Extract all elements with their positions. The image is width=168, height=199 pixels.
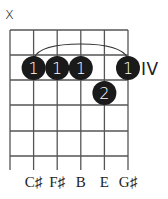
finger-label: 1 (52, 59, 62, 78)
note-name: B (69, 174, 93, 191)
chord-grid: 1 1 1 1 2 (0, 0, 168, 199)
finger-label: 1 (76, 59, 86, 78)
note-name: F♯ (45, 174, 69, 191)
finger-label: 1 (29, 59, 39, 78)
string-note-names: C♯ F♯ B E G♯ (0, 174, 168, 194)
note-name: E (92, 174, 116, 191)
note-name: C♯ (22, 174, 46, 191)
fret-position-label: IV (141, 59, 159, 79)
finger-label: 1 (123, 59, 133, 78)
note-name: G♯ (116, 174, 140, 191)
finger-label: 2 (99, 84, 109, 103)
muted-string-marker: x (5, 5, 14, 23)
